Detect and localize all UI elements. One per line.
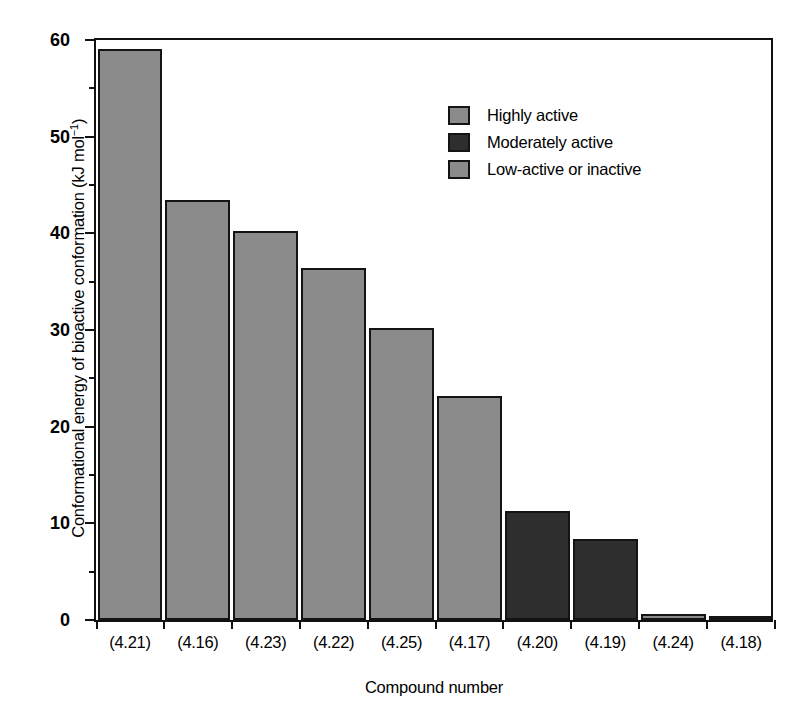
- x-axis-tick-label: (4.22): [313, 633, 354, 652]
- x-axis-title: Compound number: [94, 678, 774, 697]
- bar: [98, 49, 163, 620]
- y-axis-tick-label: 10: [50, 513, 70, 534]
- x-axis-tick: [502, 620, 504, 629]
- legend-label: Low-active or inactive: [487, 160, 641, 179]
- x-axis-tick-label: (4.17): [449, 633, 490, 652]
- x-axis-tick: [638, 620, 640, 629]
- x-axis-tick: [367, 620, 369, 629]
- y-axis-tick-major: 10: [85, 522, 96, 524]
- x-axis-tick: [231, 620, 233, 629]
- legend-item: Moderately active: [448, 129, 641, 156]
- bar: [709, 616, 774, 620]
- y-axis-tick-major: 0: [85, 619, 96, 621]
- x-axis-tick-label: (4.20): [517, 633, 558, 652]
- y-axis-tick-minor: [89, 281, 96, 283]
- legend-item: Low-active or inactive: [448, 156, 641, 183]
- legend-label: Highly active: [487, 106, 578, 125]
- chart-legend: Highly activeModerately activeLow-active…: [448, 102, 641, 183]
- bar: [301, 268, 366, 620]
- x-axis-tick-label: (4.18): [720, 633, 761, 652]
- bar: [437, 396, 502, 620]
- y-axis-title-tail: ): [69, 119, 87, 124]
- x-axis-tick-label: (4.19): [585, 633, 626, 652]
- x-axis-tick: [435, 620, 437, 629]
- y-axis-tick-label: 0: [60, 610, 70, 631]
- y-axis-tick-label: 30: [50, 320, 70, 341]
- bar: [573, 539, 638, 620]
- x-axis-tick-label: (4.25): [381, 633, 422, 652]
- bar: [641, 614, 706, 620]
- legend-swatch-icon: [448, 106, 470, 125]
- y-axis-tick-major: 30: [85, 329, 96, 331]
- y-axis-tick-minor: [89, 377, 96, 379]
- x-axis-tick-label: (4.16): [177, 633, 218, 652]
- x-axis-tick-label: (4.21): [109, 633, 150, 652]
- y-axis-tick-label: 50: [50, 126, 70, 147]
- y-axis-tick-minor: [89, 87, 96, 89]
- legend-swatch-icon: [448, 160, 470, 179]
- x-axis-tick: [299, 620, 301, 629]
- y-axis-tick-minor: [89, 571, 96, 573]
- y-axis-tick-major: 40: [85, 232, 96, 234]
- y-axis-tick-label: 60: [50, 30, 70, 51]
- bar-series: [96, 40, 771, 620]
- x-axis-tick: [706, 620, 708, 629]
- y-axis-tick-minor: [89, 184, 96, 186]
- legend-label: Moderately active: [487, 133, 613, 152]
- y-axis-tick-major: 60: [85, 39, 96, 41]
- y-axis-tick-label: 20: [50, 416, 70, 437]
- bar-chart-figure: Conformational energy of bioactive confo…: [0, 0, 802, 713]
- y-axis-tick-major: 20: [85, 426, 96, 428]
- x-axis-tick: [570, 620, 572, 629]
- bar: [369, 328, 434, 620]
- x-axis-tick-label: (4.24): [652, 633, 693, 652]
- legend-item: Highly active: [448, 102, 641, 129]
- plot-area: 0102030405060 (4.21)(4.16)(4.23)(4.22)(4…: [94, 38, 773, 622]
- y-axis-tick-minor: [89, 474, 96, 476]
- x-axis-tick-label: (4.23): [245, 633, 286, 652]
- y-axis-tick-label: 40: [50, 223, 70, 244]
- x-axis-tick: [774, 620, 776, 629]
- y-axis-title-text: Conformational energy of bioactive confo…: [69, 136, 87, 538]
- bar: [165, 200, 230, 620]
- x-axis-tick: [96, 620, 98, 629]
- y-axis-tick-major: 50: [85, 136, 96, 138]
- legend-swatch-icon: [448, 133, 470, 152]
- bar: [233, 231, 298, 620]
- x-axis-tick: [163, 620, 165, 629]
- bar: [505, 511, 570, 620]
